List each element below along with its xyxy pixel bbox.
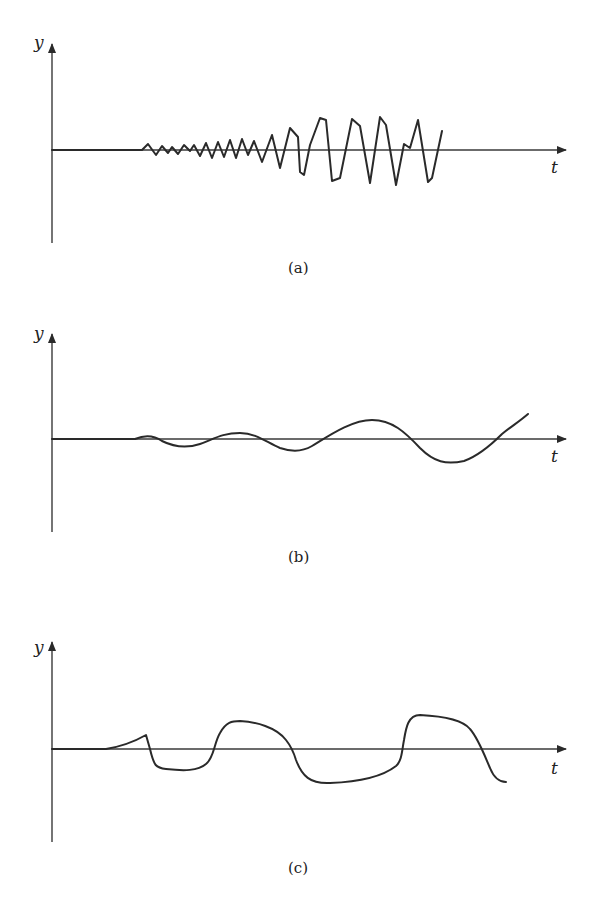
- t-axis-label-a: t: [551, 157, 558, 177]
- y-axis-label-b: y: [33, 323, 44, 343]
- caption-b: (b): [288, 548, 309, 566]
- curve-a: [52, 117, 442, 185]
- caption-a: (a): [288, 259, 309, 277]
- y-axis-label-c: y: [33, 637, 44, 657]
- panel-b: y t (b): [33, 323, 566, 566]
- caption-c: (c): [288, 859, 308, 877]
- y-axis-label-a: y: [33, 32, 44, 52]
- t-axis-label-b: t: [551, 446, 558, 466]
- panel-a: y t (a): [33, 32, 566, 277]
- t-axis-label-c: t: [551, 758, 558, 778]
- figure-canvas: y t (a) y t (b) y t (c): [0, 0, 600, 911]
- panel-c: y t (c): [33, 637, 566, 877]
